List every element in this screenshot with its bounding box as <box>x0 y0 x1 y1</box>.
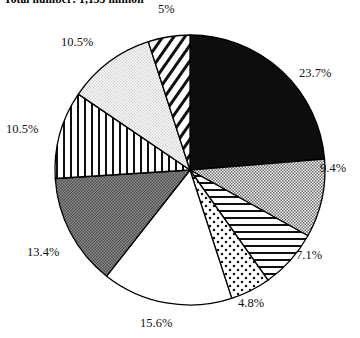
slice-label-3: 7.1% <box>296 248 322 262</box>
slice-label-5: 15.6% <box>140 316 172 330</box>
slice-label-4: 4.8% <box>238 296 264 310</box>
pie-slices-group <box>55 35 325 305</box>
slice-label-6: 13.4% <box>27 245 59 259</box>
slice-label-7: 10.5% <box>6 122 38 136</box>
pie-slice-1 <box>190 35 325 170</box>
slice-label-2: 9.4% <box>320 161 346 175</box>
slice-label-8: 10.5% <box>61 35 93 49</box>
slice-label-1: 23.7% <box>299 66 331 80</box>
slice-label-9: 5% <box>158 2 175 16</box>
pie-chart-figure: Total number: 1,153 million <box>0 0 360 338</box>
pie-chart-svg <box>0 0 360 338</box>
